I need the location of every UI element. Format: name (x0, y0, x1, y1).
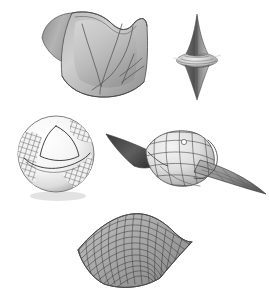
surface-spindle (172, 10, 222, 104)
surface-sphere-geodesic (12, 112, 104, 204)
figure-root (0, 0, 269, 298)
spindle-glint-right (214, 55, 221, 57)
surface-pseudosphere (104, 126, 268, 198)
surface-saddle-patch (34, 4, 154, 104)
sphere-contact-shadow (30, 191, 86, 201)
spindle-equator-disc (176, 54, 217, 68)
pseudosphere-pole-marker (181, 139, 186, 144)
surface-hyperbolic-paraboloid (70, 206, 200, 294)
